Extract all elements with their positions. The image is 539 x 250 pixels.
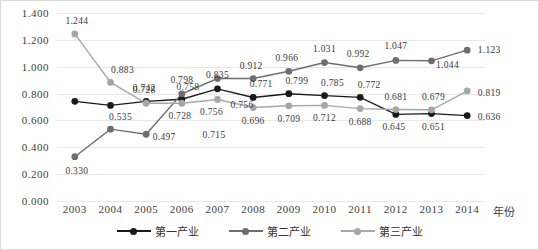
data-point-marker [357,94,364,101]
x-axis-tick-label: 2013 [420,203,444,215]
data-point-marker [321,102,328,109]
legend-item-第一产业[interactable]: 第一产业 [117,223,199,239]
x-axis-tick-label: 2004 [99,203,123,215]
series-line [75,34,467,110]
y-axis-tick-label: 0.200 [22,168,49,180]
data-point-marker [321,92,328,99]
data-point-marker [428,57,435,64]
legend: 第一产业第二产业第三产业 [1,223,538,239]
data-point-marker [214,75,221,82]
data-point-marker [357,105,364,112]
legend-marker-icon [341,226,375,236]
data-point-marker [178,90,185,97]
legend-marker-icon [117,226,151,236]
data-point-marker [250,104,257,111]
x-axis-tick-label: 2009 [277,203,301,215]
data-point-marker [143,131,150,138]
x-axis-tick-label: 2010 [313,203,337,215]
data-point-marker [321,59,328,66]
y-axis-tick-label: 1.000 [22,61,49,73]
data-point-marker [428,106,435,113]
x-axis-tick-label: 2011 [348,203,372,215]
x-axis-title: 年份 [493,203,515,219]
data-point-marker [214,96,221,103]
data-point-marker [143,100,150,107]
data-point-marker [107,126,114,133]
data-point-marker [392,106,399,113]
data-point-marker [285,102,292,109]
data-point-marker [285,68,292,75]
legend-label: 第三产业 [379,223,423,239]
x-axis-labels: 2003200420052006200720082009201020112012… [57,203,485,221]
series-layer [57,13,485,201]
x-axis-tick-label: 2003 [63,203,87,215]
plot-area: 0.7420.7580.8350.7710.7990.7850.7720.645… [57,13,485,201]
y-axis-labels: 0.0000.2000.4000.6000.8001.0001.2001.400 [1,13,53,201]
data-point-marker [71,31,78,38]
data-point-marker [464,47,471,54]
data-point-marker [464,88,471,95]
legend-label: 第二产业 [267,223,311,239]
data-point-marker [357,64,364,71]
x-axis-tick-label: 2007 [206,203,230,215]
data-point-marker [71,153,78,160]
legend-marker-icon [229,226,263,236]
y-axis-tick-label: 0.000 [22,195,49,207]
data-point-marker [107,79,114,86]
x-axis-tick-label: 2005 [134,203,158,215]
data-point-marker [178,100,185,107]
x-axis-tick-label: 2006 [170,203,194,215]
series-line [75,89,467,116]
y-axis-tick-label: 0.400 [22,141,49,153]
data-point-marker [392,57,399,64]
y-axis-tick-label: 0.600 [22,114,49,126]
gridline [57,201,485,202]
data-point-marker [107,102,114,109]
data-point-marker [214,85,221,92]
data-point-marker [250,75,257,82]
x-axis-tick-label: 2012 [384,203,408,215]
data-point-marker [464,112,471,119]
legend-item-第二产业[interactable]: 第二产业 [229,223,311,239]
y-axis-tick-label: 1.200 [22,34,49,46]
data-point-marker [285,90,292,97]
data-point-marker [250,94,257,101]
x-axis-tick-label: 2014 [455,203,479,215]
y-axis-tick-label: 1.400 [22,7,49,19]
y-axis-tick-label: 0.800 [22,88,49,100]
legend-label: 第一产业 [155,223,199,239]
data-point-marker [71,98,78,105]
legend-item-第三产业[interactable]: 第三产业 [341,223,423,239]
line-chart: 0.0000.2000.4000.6000.8001.0001.2001.400… [0,0,539,250]
x-axis-tick-label: 2008 [241,203,265,215]
